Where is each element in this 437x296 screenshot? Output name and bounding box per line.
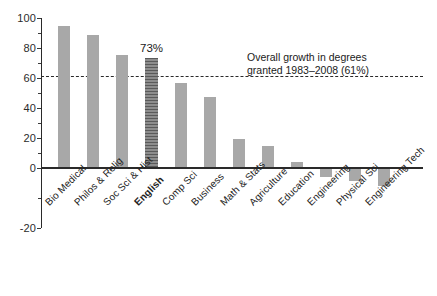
y-tick-label-neg20: -20 [4, 222, 36, 234]
bar-english [145, 58, 158, 167]
y-tick-label-80: 80 [8, 42, 36, 54]
y-minor-tick-10 [38, 153, 41, 154]
bar-education [291, 162, 303, 167]
y-tick-neg20 [37, 228, 41, 229]
bar-comp-sci [175, 83, 187, 167]
y-tick-80 [37, 48, 41, 49]
y-tick-label-20: 20 [8, 132, 36, 144]
y-axis-line [41, 18, 42, 228]
annotation-line-1: Overall growth in degrees [247, 51, 369, 64]
y-minor-tick-90 [38, 33, 41, 34]
y-tick-label-40: 40 [8, 102, 36, 114]
bar-chart: 100 80 60 40 20 0 -20 73% Overall growth… [0, 0, 437, 296]
bar-business [204, 97, 216, 167]
y-tick-20 [37, 138, 41, 139]
y-minor-tick-50 [38, 93, 41, 94]
annotation-line-2: granted 1983–2008 (61%) [247, 64, 369, 77]
bar-philos-relig [87, 35, 99, 167]
y-minor-tick-70 [38, 63, 41, 64]
y-minor-tick-neg10 [38, 198, 41, 199]
bar-bio-medical [58, 26, 70, 167]
y-tick-40 [37, 108, 41, 109]
bar-math-stats [233, 139, 245, 167]
y-tick-label-0: 0 [8, 162, 36, 174]
bar-soc-sci-hist [116, 55, 128, 167]
y-minor-tick-30 [38, 123, 41, 124]
annotation-overall-growth: Overall growth in degrees granted 1983–2… [247, 51, 369, 76]
y-tick-label-100: 100 [8, 12, 36, 24]
data-label-english: 73% [140, 42, 163, 54]
y-tick-label-60: 60 [8, 72, 36, 84]
y-tick-100 [37, 18, 41, 19]
y-tick-60 [37, 78, 41, 79]
